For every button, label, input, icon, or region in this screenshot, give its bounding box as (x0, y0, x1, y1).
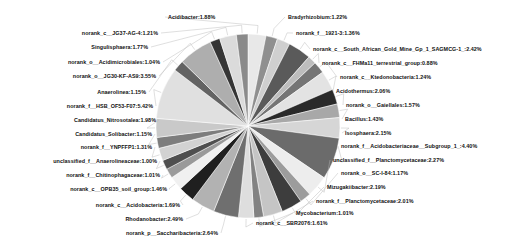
pie-slice-label: Anaerolinea:1.15% (97, 89, 146, 96)
pie-leader-line (246, 219, 253, 227)
pie-leader-line (162, 174, 169, 178)
pie-slice-label: norank_c__Ktedonobacteria:1.24% (340, 74, 431, 81)
pie-slice-label: Candidatus_Nitrosotalea:1.98% (74, 117, 156, 124)
pie-leader-line (186, 207, 202, 219)
pie-slice-label: Bradyrhizobium:1.22% (288, 14, 347, 21)
pie-slice-label: Bacillus:1.43% (345, 116, 383, 123)
pie-slice-label: norank_c__SBR2076:1.61% (256, 220, 328, 227)
pie-slice-label: norank_f__Chitinophagaceae:1.01% (66, 172, 160, 179)
pie-slice-label: norank_f__YNPFFP1:1.31% (81, 144, 152, 151)
pie-slice-label: norank_f__HSB_OF53-F07:5.42% (67, 103, 153, 110)
pie-slice-label: Rhodanobacter:2.49% (125, 216, 183, 223)
pie-slice-label: Acidothermus:2.06% (336, 88, 390, 95)
pie-slice-label: norank_o__Gaiellales:1.57% (346, 102, 420, 109)
pie-leader-line (156, 161, 163, 169)
pie-slice-label: Mycobacterium:1.01% (296, 210, 354, 217)
pie-slice-label: Acidibacter:1.88% (168, 14, 215, 21)
pie-slice-label: Singulisphaera:1.77% (91, 44, 148, 51)
pie-slice-label: unclassified_f__Anaerolineaceae:1.00% (53, 158, 157, 165)
pie-chart-figure: Acidibacter:1.88%Bradyrhizobium:1.22%nor… (0, 0, 523, 246)
pie-slice-label: norank_c__Acidobacteria:1.69% (96, 202, 180, 209)
pie-leader-line (221, 216, 226, 233)
pie-slice-label: norank_f__Acidobacteriaceae__Subgroup_1_… (341, 143, 477, 150)
pie-slice-label: Mizugakiibacter:2.19% (327, 184, 386, 191)
pie-leader-line (161, 25, 242, 33)
pie-slice-label: norank_o__Acidimicrobiales:1.04% (68, 59, 160, 66)
pie-slice-label: norank_c__South_African_Gold_Mine_Gp_1_S… (313, 46, 482, 53)
pie-slice-label: norank_c__FHMa11_terrestrial_group:0.88% (322, 60, 438, 67)
pie-slice-label: Candidatus_Solibacter:1.15% (75, 131, 152, 138)
pie-slice-label: Isosphaera:2.15% (345, 130, 391, 137)
pie-slice-label: unclassified_f__Planctomycetaceae:2.27% (333, 157, 444, 164)
pie-slice-label: norank_c__JG37-AG-4:1.21% (82, 30, 158, 37)
pie-slice-label: norank_f__Planctomycetaceae:2.01% (316, 198, 414, 205)
pie-leader-line (169, 184, 175, 189)
pie-leader-line (300, 42, 310, 49)
pie-slice-label: norank_p__Saccharibacteria:2.64% (126, 230, 218, 237)
pie-leader-line (152, 147, 160, 157)
pie-slice-label: norank_f__1921-3:1.36% (296, 30, 360, 37)
pie-slice-label: norank_o__JG30-KF-AS9:3.55% (73, 73, 156, 80)
pie-slice-label: norank_o__SC-I-84:1.17% (341, 170, 408, 177)
pie-leader-line (272, 17, 285, 36)
pie-leader-line (284, 33, 293, 40)
pie-leader-line (180, 195, 185, 205)
pie-slice-label: norank_c__OPB35_soil_group:1.46% (70, 186, 167, 193)
